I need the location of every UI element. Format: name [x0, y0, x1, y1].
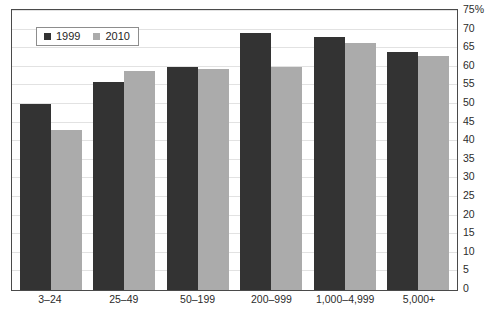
bar-1999-3–24[interactable]: [20, 104, 51, 290]
legend-swatch-icon-2010: [93, 33, 100, 40]
y-axis-tick: 45: [463, 115, 501, 127]
x-axis-tick: 200–999: [234, 293, 308, 313]
x-axis-tick: 3–24: [13, 293, 87, 313]
bar-2010-50–199[interactable]: [198, 69, 229, 290]
y-axis-tick: 50: [463, 96, 501, 108]
y-axis-tick: 0: [463, 282, 501, 294]
bar-1999-25–49[interactable]: [93, 82, 124, 290]
y-axis-tick: 55: [463, 77, 501, 89]
y-axis-tick: 35: [463, 152, 501, 164]
bar-group: [235, 10, 309, 290]
bar-group: [88, 10, 162, 290]
bar-groups: [12, 10, 457, 290]
legend-swatch-icon-1999: [44, 33, 51, 40]
bar-group: [161, 10, 235, 290]
chart-container: 1999 2010 75%706560555045403530252015105…: [0, 0, 502, 318]
bar-2010-1,000–4,999[interactable]: [345, 43, 376, 290]
y-axis-tick: 15: [463, 226, 501, 238]
chart-legend: 1999 2010: [36, 27, 139, 46]
legend-item-1999[interactable]: 1999: [44, 31, 80, 42]
legend-label-2010: 2010: [105, 31, 129, 42]
x-axis: 3–2425–4950–199200–9991,000–4,9995,000+: [11, 293, 458, 313]
y-axis-tick: 65: [463, 40, 501, 52]
bar-2010-200–999[interactable]: [271, 67, 302, 290]
y-axis-tick: 40: [463, 133, 501, 145]
chart-title-clipped: [0, 0, 470, 3]
y-axis-tick: 60: [463, 59, 501, 71]
legend-label-1999: 1999: [56, 31, 80, 42]
y-axis-tick: 5: [463, 263, 501, 275]
bar-group: [14, 10, 88, 290]
plot-area: 1999 2010: [11, 9, 458, 291]
bar-group: [382, 10, 456, 290]
y-axis-tick: 25: [463, 189, 501, 201]
x-axis-tick: 1,000–4,999: [308, 293, 382, 313]
legend-item-2010[interactable]: 2010: [93, 31, 129, 42]
y-axis-tick: 20: [463, 208, 501, 220]
bar-1999-1,000–4,999[interactable]: [314, 37, 345, 290]
bar-1999-200–999[interactable]: [240, 33, 271, 290]
y-axis: 75%7065605550454035302520151050: [463, 0, 502, 318]
y-axis-tick: 75%: [463, 3, 501, 15]
y-axis-tick: 70: [463, 22, 501, 34]
bar-2010-3–24[interactable]: [51, 130, 82, 290]
x-axis-tick: 50–199: [161, 293, 235, 313]
bar-1999-50–199[interactable]: [167, 67, 198, 290]
bar-2010-25–49[interactable]: [124, 71, 155, 290]
bar-group: [308, 10, 382, 290]
y-axis-tick: 10: [463, 245, 501, 257]
x-axis-tick: 25–49: [87, 293, 161, 313]
y-axis-tick: 30: [463, 170, 501, 182]
bar-1999-5,000+[interactable]: [387, 52, 418, 290]
bar-2010-5,000+[interactable]: [418, 56, 449, 290]
x-axis-tick: 5,000+: [382, 293, 456, 313]
